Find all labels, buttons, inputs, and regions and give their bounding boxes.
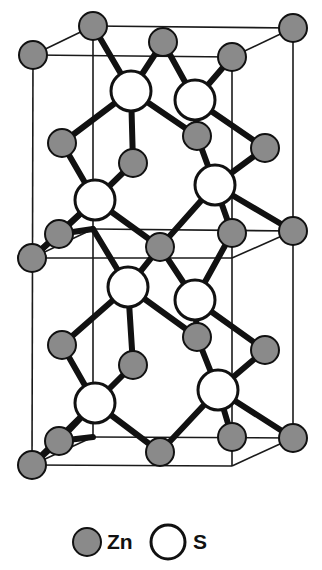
zinc-atom bbox=[146, 438, 174, 466]
cell-edge bbox=[33, 55, 232, 57]
sulfur-atom bbox=[175, 280, 215, 320]
cell-edge bbox=[93, 26, 293, 28]
zinc-atom bbox=[183, 323, 211, 351]
cell-edge bbox=[32, 465, 232, 466]
zinc-atom bbox=[218, 423, 246, 451]
zinc-atom bbox=[18, 451, 46, 479]
zinc-atom bbox=[149, 28, 177, 56]
legend-swatch-s bbox=[151, 525, 185, 559]
legend-label-s: S bbox=[193, 530, 207, 553]
zinc-atom bbox=[48, 331, 76, 359]
legend-label-zn: Zn bbox=[107, 530, 133, 553]
sulfur-atom bbox=[195, 165, 235, 205]
sulfur-atom bbox=[198, 370, 238, 410]
sulfur-atom bbox=[75, 383, 115, 423]
zinc-atom bbox=[45, 220, 73, 248]
zinc-atom bbox=[218, 219, 246, 247]
zinc-atom bbox=[146, 233, 174, 261]
legend: ZnS bbox=[73, 525, 207, 559]
zinc-atom bbox=[279, 14, 307, 42]
zinc-atom bbox=[119, 351, 147, 379]
crystal-structure-figure: ZnS bbox=[0, 0, 322, 570]
zns-structure-svg: ZnS bbox=[0, 0, 322, 570]
zinc-atom bbox=[279, 424, 307, 452]
zinc-atom bbox=[48, 129, 76, 157]
atom-group bbox=[18, 12, 307, 479]
sulfur-atom bbox=[111, 71, 151, 111]
sulfur-atom bbox=[108, 267, 148, 307]
zinc-atom bbox=[79, 12, 107, 40]
zinc-atom bbox=[279, 217, 307, 245]
zinc-atom bbox=[45, 427, 73, 455]
sulfur-atom bbox=[175, 80, 215, 120]
cell-edge bbox=[93, 437, 293, 438]
legend-swatch-zn bbox=[73, 528, 101, 556]
zinc-atom bbox=[19, 41, 47, 69]
sulfur-atom bbox=[75, 180, 115, 220]
zinc-atom bbox=[218, 43, 246, 71]
cell-edge bbox=[93, 229, 293, 231]
zinc-atom bbox=[183, 122, 211, 150]
zinc-atom bbox=[18, 244, 46, 272]
zinc-atom bbox=[251, 336, 279, 364]
zinc-atom bbox=[119, 149, 147, 177]
zinc-atom bbox=[251, 134, 279, 162]
